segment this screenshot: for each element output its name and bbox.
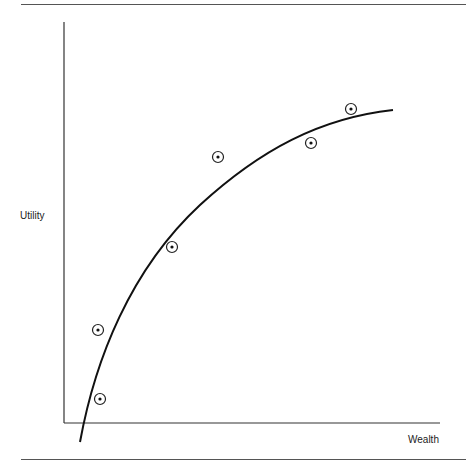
data-point-dot [98, 397, 101, 400]
data-point-dot [309, 141, 312, 144]
y-axis-label: Utility [20, 210, 44, 221]
x-axis-label: Wealth [408, 434, 439, 445]
data-point-dot [96, 328, 99, 331]
bottom-rule [21, 459, 466, 460]
utility-chart [0, 0, 472, 465]
data-point-dot [170, 245, 173, 248]
data-point-dot [349, 107, 352, 110]
data-point-dot [216, 155, 219, 158]
data-points [93, 104, 357, 405]
utility-curve [80, 110, 393, 442]
